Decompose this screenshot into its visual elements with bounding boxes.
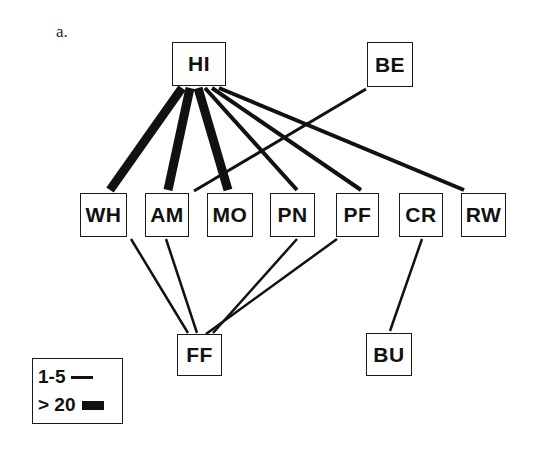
graph-edge-hi-mo [198,88,228,190]
graph-edge-hi-rw [219,88,464,190]
graph-edge-hi-pf [212,88,361,190]
graph-node-pn[interactable]: PN [270,193,315,237]
figure-panel: a. HIBEWHAMMOPNPFCRRWFFBU 1-5 > 20 [0,0,535,454]
graph-edge-cr-bu [390,239,422,331]
legend-label-thick: > 20 [38,394,76,416]
legend-swatch-thin-line [71,376,93,379]
graph-node-hi[interactable]: HI [172,42,226,86]
graph-node-label: CR [405,203,436,227]
graph-edge-pf-ff [206,239,337,334]
graph-node-be[interactable]: BE [367,42,413,87]
graph-node-wh[interactable]: WH [80,193,127,237]
graph-node-label: WH [86,203,122,227]
graph-node-label: FF [186,343,213,367]
graph-node-label: PN [277,203,307,227]
graph-node-rw[interactable]: RW [461,193,506,237]
graph-edge-hi-am [168,88,190,190]
graph-node-label: BE [375,53,405,77]
graph-edge-wh-ff [131,239,188,333]
graph-node-pf[interactable]: PF [336,193,379,237]
graph-edge-am-ff [166,239,197,333]
panel-label: a. [56,22,68,42]
legend-label-thin: 1-5 [38,366,65,388]
graph-node-mo[interactable]: MO [207,193,253,237]
graph-node-label: MO [213,203,248,227]
graph-edge-hi-pn [205,88,297,190]
graph-edge-be-mo [194,89,366,191]
graph-node-label: HI [188,52,210,76]
graph-edge-pn-ff [213,239,297,333]
legend-swatch-thick-line [82,401,104,410]
graph-node-bu[interactable]: BU [366,333,412,376]
edge-weight-legend: 1-5 > 20 [32,358,123,424]
graph-node-ff[interactable]: FF [177,334,222,376]
graph-node-cr[interactable]: CR [399,193,443,237]
graph-node-am[interactable]: AM [145,193,189,237]
graph-node-label: AM [150,203,184,227]
legend-row-thick: > 20 [38,391,122,419]
legend-row-thin: 1-5 [38,363,122,391]
graph-edge-hi-wh [110,88,182,190]
graph-node-label: PF [344,203,372,227]
graph-node-label: RW [466,203,502,227]
graph-node-label: BU [373,343,404,367]
